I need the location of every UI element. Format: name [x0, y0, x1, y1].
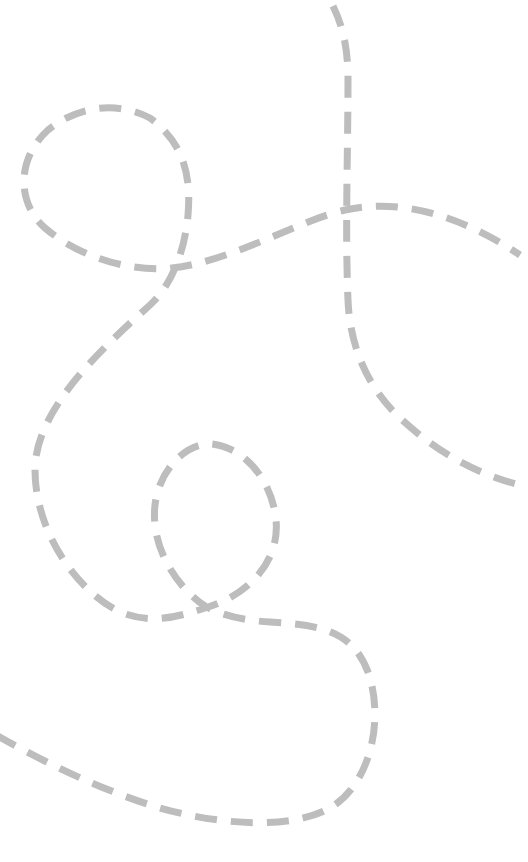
- looping-dashed-curve: [0, 108, 520, 823]
- vertical-dashed-curve: [333, 6, 520, 485]
- dashed-curves-illustration: [0, 0, 528, 862]
- line-art-canvas: [0, 0, 528, 862]
